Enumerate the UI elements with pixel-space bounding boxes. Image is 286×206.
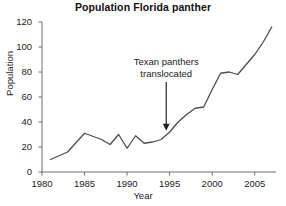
y-tick-label: 80 [6, 66, 32, 77]
y-tick-label: 40 [6, 116, 32, 127]
axes [42, 22, 276, 172]
y-tick-label: 120 [6, 16, 32, 27]
data-line-series [51, 27, 272, 160]
annotation-texan-panthers: Texan panthers translocated [106, 56, 226, 79]
x-tick-label: 1985 [65, 178, 105, 189]
plot-area [0, 0, 286, 206]
x-axis-label: Year [0, 190, 286, 201]
y-tick-label: 60 [6, 91, 32, 102]
chart-title: Population Florida panther [0, 1, 286, 13]
y-tick-label: 100 [6, 41, 32, 52]
axis-ticks [39, 22, 255, 176]
x-tick-label: 2000 [192, 178, 232, 189]
x-tick-label: 2005 [235, 178, 275, 189]
x-tick-label: 1980 [22, 178, 62, 189]
arrow-head [163, 124, 170, 131]
chart-figure: Population Florida panther Population Ye… [0, 0, 286, 206]
annotation-line-2: translocated [106, 68, 226, 80]
annotation-arrow [163, 82, 170, 131]
y-tick-label: 0 [6, 166, 32, 177]
y-tick-label: 20 [6, 141, 32, 152]
x-tick-label: 1990 [107, 178, 147, 189]
annotation-line-1: Texan panthers [106, 56, 226, 68]
x-tick-label: 1995 [150, 178, 190, 189]
data-line [51, 27, 272, 160]
